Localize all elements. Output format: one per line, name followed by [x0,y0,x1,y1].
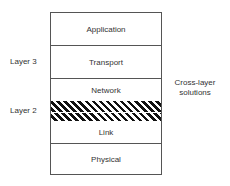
cross-layer-label: Cross-layer solutions [164,78,226,98]
side-label-layer3: Layer 3 [10,57,37,66]
hatch-divider [51,112,161,113]
cross-layer-hatch-band [51,101,161,121]
layer-transport: Transport [51,46,161,78]
layer-physical: Physical [51,144,161,175]
protocol-stack: Application Transport Network Link Physi… [50,12,162,175]
cross-layer-line1: Cross-layer [164,78,226,88]
layer-link: Link [51,121,161,143]
cross-layer-line2: solutions [164,88,226,98]
side-label-layer2: Layer 2 [10,106,37,115]
layer-network: Network [51,79,161,101]
layer-application: Application [51,13,161,45]
